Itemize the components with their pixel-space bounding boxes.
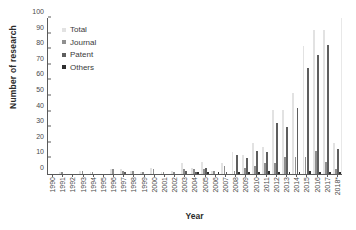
x-tick: 2006 xyxy=(210,177,220,211)
bar-others xyxy=(197,172,199,174)
y-tick-label: 0 xyxy=(40,164,48,171)
bar-group xyxy=(220,18,230,174)
bar-group xyxy=(261,18,271,174)
x-tick: 2001 xyxy=(159,177,169,211)
bar-group xyxy=(251,18,261,174)
bar-group xyxy=(210,18,220,174)
x-tick-label: 2010 xyxy=(252,177,259,193)
legend-item-total: Total xyxy=(62,25,96,34)
x-tick-label: 2002 xyxy=(171,177,178,193)
x-tick: 1992 xyxy=(67,177,77,211)
legend-swatch-icon xyxy=(62,65,66,69)
x-tick-label: 2006 xyxy=(211,177,218,193)
x-tick-label: 2005 xyxy=(201,177,208,193)
y-tick-label: 40 xyxy=(36,101,48,108)
x-tick: 1991 xyxy=(57,177,67,211)
x-tick: 1999 xyxy=(139,177,149,211)
x-tick: 1994 xyxy=(88,177,98,211)
bar-group xyxy=(48,18,58,174)
bar-patent xyxy=(297,108,299,174)
x-tick-label: 1990 xyxy=(49,177,56,193)
x-tick-label: 1996 xyxy=(110,177,117,193)
x-tick: 2004 xyxy=(189,177,199,211)
bar-total xyxy=(303,46,305,174)
x-tick: 1996 xyxy=(108,177,118,211)
x-tick-label: 2007 xyxy=(222,177,229,193)
x-tick-label: 2009 xyxy=(242,177,249,193)
bar-others xyxy=(238,172,240,174)
bar-patent xyxy=(307,68,309,174)
bar-group xyxy=(99,18,109,174)
bar-group xyxy=(312,18,322,174)
bar-others xyxy=(299,172,301,174)
x-tick: 1995 xyxy=(98,177,108,211)
bar-others xyxy=(278,172,280,174)
bar-patent xyxy=(236,155,238,174)
x-tick-label: 1998 xyxy=(130,177,137,193)
x-tick: 2005 xyxy=(200,177,210,211)
x-tick: 1998 xyxy=(128,177,138,211)
legend-item-journal: Journal xyxy=(62,38,96,47)
x-tick-label: 2000 xyxy=(150,177,157,193)
bar-patent xyxy=(256,151,258,174)
x-tick: 2011 xyxy=(261,177,271,211)
bar-others xyxy=(289,172,291,174)
bar-patent xyxy=(286,127,288,174)
y-tick-label: 80 xyxy=(36,39,48,46)
y-axis-title: Number of research xyxy=(8,7,18,127)
bar-patent xyxy=(327,45,329,174)
bar-group xyxy=(231,18,241,174)
bar-group xyxy=(180,18,190,174)
x-tick: 1993 xyxy=(78,177,88,211)
x-tick: 2003 xyxy=(179,177,189,211)
bar-group xyxy=(241,18,251,174)
bar-patent xyxy=(337,149,339,174)
x-tick: 2012 xyxy=(271,177,281,211)
bar-others xyxy=(319,172,321,174)
y-tick-label: 20 xyxy=(36,132,48,139)
bar-others xyxy=(248,172,250,174)
bar-group xyxy=(129,18,139,174)
x-tick-label: 2008 xyxy=(232,177,239,193)
bar-others xyxy=(339,172,341,174)
legend-label: Total xyxy=(70,25,87,34)
bar-group xyxy=(281,18,291,174)
bar-group xyxy=(302,18,312,174)
x-tick-label: 2001 xyxy=(160,177,167,193)
bar-group xyxy=(149,18,159,174)
bar-group xyxy=(271,18,281,174)
x-tick-label: 2012 xyxy=(272,177,279,193)
bar-others xyxy=(309,171,311,174)
y-tick-label: 100 xyxy=(32,8,48,15)
bar-others xyxy=(218,172,220,174)
x-tick-label: 2017 xyxy=(323,177,330,193)
bar-others xyxy=(258,172,260,174)
y-tick-label: 10 xyxy=(36,148,48,155)
x-tick-label: 2014 xyxy=(293,177,300,193)
legend-swatch-icon xyxy=(62,28,66,32)
x-tick-label: 2018* xyxy=(333,177,340,195)
bar-group xyxy=(200,18,210,174)
x-tick-label: 1992 xyxy=(69,177,76,193)
bar-group xyxy=(160,18,170,174)
x-tick: 2014 xyxy=(291,177,301,211)
bar-patent xyxy=(276,123,278,174)
bar-total xyxy=(323,30,325,174)
legend-label: Patent xyxy=(70,50,93,59)
x-tick: 2002 xyxy=(169,177,179,211)
bar-chart: Number of research 010203040506070809010… xyxy=(0,0,356,230)
x-tick: 2015 xyxy=(301,177,311,211)
bar-group xyxy=(109,18,119,174)
bar-group xyxy=(139,18,149,174)
bar-others xyxy=(329,172,331,174)
x-tick-label: 1995 xyxy=(99,177,106,193)
bar-patent xyxy=(317,55,319,174)
x-tick-label: 2016 xyxy=(313,177,320,193)
legend-swatch-icon xyxy=(62,53,66,57)
y-tick-label: 70 xyxy=(36,54,48,61)
x-tick-label: 2003 xyxy=(181,177,188,193)
bar-others xyxy=(207,172,209,174)
x-tick: 2008 xyxy=(230,177,240,211)
bar-patent xyxy=(124,172,126,174)
legend-item-others: Others xyxy=(62,63,96,72)
